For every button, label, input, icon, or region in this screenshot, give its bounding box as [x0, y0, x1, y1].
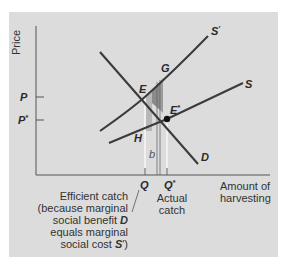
- efficient-catch-pointer: [132, 190, 139, 212]
- point-h-label: H: [134, 132, 142, 144]
- market-equilibrium-dot: [164, 116, 170, 122]
- point-e-label: E: [139, 83, 146, 95]
- y-axis-label: Price: [10, 30, 22, 55]
- point-estar-label: E*: [170, 104, 180, 116]
- price-label-p: P: [20, 91, 27, 103]
- quantity-label-q: Q: [140, 179, 149, 191]
- social-supply-label: S′: [211, 25, 220, 37]
- efficient-catch-note: Efficient catch (because marginal social…: [24, 190, 128, 250]
- point-g-label: G: [161, 62, 170, 74]
- quantity-label-qstar: Q*: [164, 179, 175, 191]
- price-label-pstar: P*: [18, 114, 28, 126]
- private-supply-label: S: [245, 78, 252, 90]
- x-axis-label: Amount of harvesting: [220, 180, 271, 204]
- area-b-label: b: [149, 148, 155, 160]
- social-supply-curve: [100, 36, 208, 131]
- actual-catch-note: Actual catch: [152, 192, 192, 216]
- demand-label: D: [201, 151, 209, 163]
